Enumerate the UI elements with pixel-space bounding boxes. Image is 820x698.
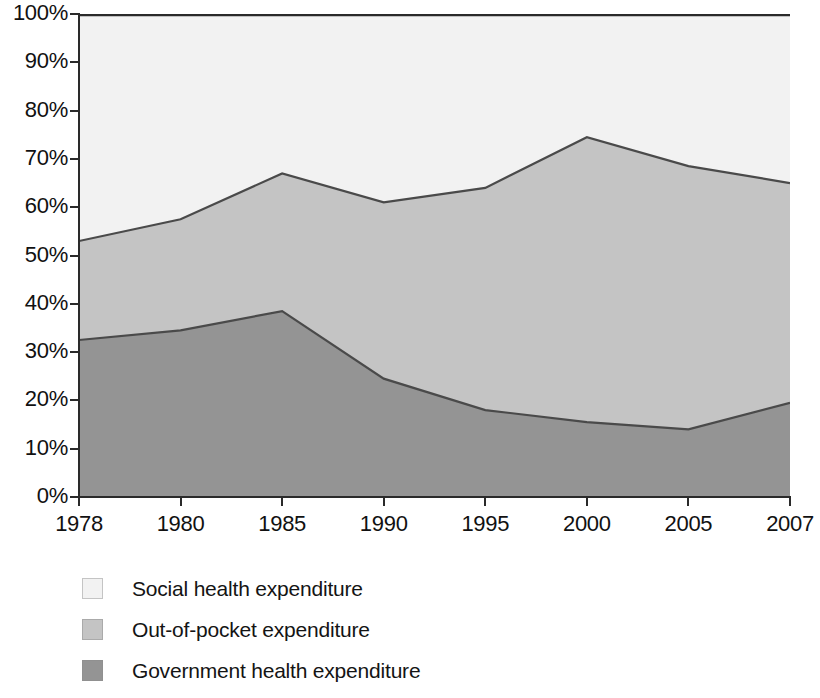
x-axis-tick-label: 1995 [440, 512, 530, 536]
x-axis-tick-label: 2000 [542, 512, 632, 536]
x-axis-line [78, 496, 791, 498]
x-axis-tick-label: 1980 [136, 512, 226, 536]
x-axis-tick [281, 497, 283, 506]
x-axis-tick-label: 1985 [237, 512, 327, 536]
y-axis-tick [70, 255, 79, 257]
y-axis-tick-label: 60% [2, 195, 68, 217]
y-axis-tick-label: 20% [2, 388, 68, 410]
legend-label-out-of-pocket: Out-of-pocket expenditure [132, 619, 370, 641]
y-axis-tick [70, 351, 79, 353]
x-axis-tick [586, 497, 588, 506]
y-axis-tick-label: 90% [2, 50, 68, 72]
y-axis-tick-label: 40% [2, 292, 68, 314]
x-axis-tick [687, 497, 689, 506]
chart-legend: Social health expenditure Out-of-pocket … [82, 568, 682, 691]
y-axis-tick-label: 100% [2, 2, 68, 24]
legend-swatch-government [82, 660, 103, 681]
y-axis-tick [70, 399, 79, 401]
plot-area [79, 14, 790, 497]
y-axis-tick-label: 10% [2, 437, 68, 459]
y-axis-tick [70, 448, 79, 450]
legend-label-social: Social health expenditure [132, 578, 363, 600]
legend-label-government: Government health expenditure [132, 660, 420, 682]
y-axis-tick-label: 80% [2, 99, 68, 121]
y-axis-tick-label: 50% [2, 244, 68, 266]
x-axis-tick-label: 2005 [643, 512, 733, 536]
y-axis-tick [70, 110, 79, 112]
x-axis-tick [789, 497, 791, 506]
legend-item-social: Social health expenditure [82, 568, 682, 609]
x-axis-tick-label: 1990 [339, 512, 429, 536]
legend-swatch-social [82, 578, 103, 599]
x-axis-tick-label: 2007 [745, 512, 820, 536]
legend-item-government: Government health expenditure [82, 650, 682, 691]
y-axis-labels: 100%90%80%70%60%50%40%30%20%10%0% [0, 0, 68, 520]
y-axis-tick [70, 13, 79, 15]
x-axis-tick [484, 497, 486, 506]
y-axis-tick [70, 158, 79, 160]
y-axis-tick [70, 206, 79, 208]
chart-figure: as possible and we expand country readin… [0, 0, 820, 698]
y-axis-tick-label: 30% [2, 340, 68, 362]
x-axis-tick [383, 497, 385, 506]
y-axis-tick [70, 303, 79, 305]
x-axis-tick-label: 1978 [34, 512, 124, 536]
legend-item-out-of-pocket: Out-of-pocket expenditure [82, 609, 682, 650]
legend-swatch-out-of-pocket [82, 619, 103, 640]
y-axis-tick-label: 70% [2, 147, 68, 169]
y-axis-tick [70, 61, 79, 63]
x-axis-tick [78, 497, 80, 506]
x-axis-tick [180, 497, 182, 506]
stacked-area-chart [79, 14, 790, 497]
y-axis-tick-label: 0% [2, 485, 68, 507]
